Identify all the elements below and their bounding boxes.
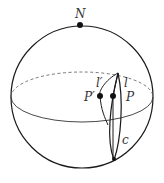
label-p: P: [125, 90, 135, 104]
line-l: [113, 73, 118, 158]
label-c: c: [122, 133, 129, 147]
point-p-prime: [97, 93, 103, 99]
bottom-point: [112, 157, 116, 161]
north-pole-point: [77, 22, 83, 28]
label-p-prime: P′: [83, 90, 95, 104]
curve-c-inner: [110, 73, 118, 160]
label-north-pole: N: [74, 7, 86, 21]
label-l-prime: l′: [96, 76, 103, 90]
sphere-diagram: N l′ l P′ P c: [0, 0, 164, 183]
point-p: [110, 93, 116, 99]
label-l: l: [124, 76, 128, 90]
